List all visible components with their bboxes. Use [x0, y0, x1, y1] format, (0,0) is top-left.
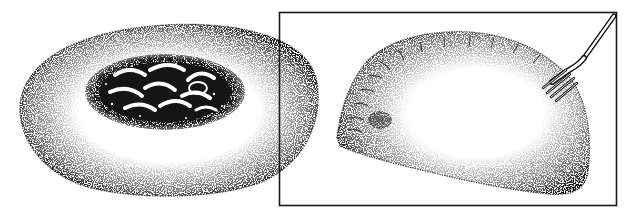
open-pastry	[20, 24, 318, 196]
fork-icon	[543, 16, 614, 101]
turnover-panel	[280, 13, 617, 206]
illustration	[0, 0, 635, 214]
turnover-dark-fold	[368, 111, 392, 129]
illustration-canvas	[0, 0, 635, 214]
turnover	[337, 32, 589, 195]
